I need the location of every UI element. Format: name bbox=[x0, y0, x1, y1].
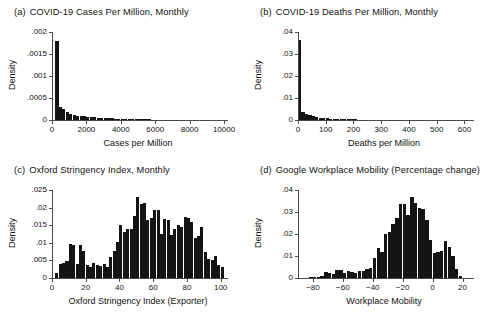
panel-a-title-text: COVID-19 Cases Per Million, Monthly bbox=[30, 7, 189, 17]
y-axis-tick-label: .04 bbox=[282, 185, 293, 194]
panel-c: (c)Oxford Stringency Index, Monthly 0.00… bbox=[0, 158, 246, 316]
histogram-bars bbox=[52, 32, 224, 120]
y-axis-tick-label: .03 bbox=[282, 49, 293, 58]
y-axis-tick-label: 0 bbox=[289, 115, 293, 124]
x-axis-tick bbox=[353, 121, 354, 124]
x-axis-tick bbox=[121, 121, 122, 124]
x-axis-tick bbox=[52, 279, 53, 282]
panel-b: (b)COVID-19 Deaths Per Million, Monthly … bbox=[246, 0, 492, 158]
y-axis-tick bbox=[49, 190, 52, 191]
y-axis-tick bbox=[49, 208, 52, 209]
x-axis-line bbox=[52, 278, 228, 279]
y-axis-tick-label: .03 bbox=[282, 207, 293, 216]
y-axis-tick-label: 0 bbox=[43, 273, 47, 282]
y-axis-tick bbox=[49, 54, 52, 55]
x-axis-title: Cases per Million bbox=[52, 138, 224, 148]
y-axis-tick-label: .01 bbox=[36, 238, 47, 247]
x-axis-tick bbox=[403, 279, 404, 282]
y-axis-tick-label: 0 bbox=[289, 273, 293, 282]
y-axis-tick bbox=[295, 234, 298, 235]
x-axis-tick bbox=[373, 279, 374, 282]
y-axis-tick bbox=[295, 190, 298, 191]
y-axis-tick-label: .0005 bbox=[27, 93, 47, 102]
x-axis-tick bbox=[409, 121, 410, 124]
x-axis-tick bbox=[52, 121, 53, 124]
x-axis-tick bbox=[313, 279, 314, 282]
x-axis-tick bbox=[381, 121, 382, 124]
x-axis-tick bbox=[187, 279, 188, 282]
panel-d: (d)Google Workplace Mobility (Percentage… bbox=[246, 158, 492, 316]
y-axis-tick bbox=[295, 32, 298, 33]
histogram-bars bbox=[298, 190, 470, 278]
y-axis-tick bbox=[49, 243, 52, 244]
x-axis-tick bbox=[433, 279, 434, 282]
panel-d-title-text: Google Workplace Mobility (Percentage ch… bbox=[276, 165, 480, 175]
x-axis-tick bbox=[190, 121, 191, 124]
panel-a-tag: (a) bbox=[14, 7, 26, 17]
x-axis-tick bbox=[153, 279, 154, 282]
y-axis-tick bbox=[49, 260, 52, 261]
x-axis-title: Deaths per Million bbox=[298, 138, 470, 148]
x-axis-tick-label: 20 bbox=[441, 283, 485, 292]
y-axis-title: Density bbox=[7, 55, 17, 95]
x-axis-title: Workplace Mobility bbox=[298, 296, 470, 306]
y-axis-line bbox=[298, 32, 299, 121]
panel-c-title-text: Oxford Stringency Index, Monthly bbox=[29, 165, 170, 175]
histogram-bars bbox=[52, 190, 224, 278]
x-axis-tick-label: 600 bbox=[442, 125, 486, 134]
y-axis-tick-label: .01 bbox=[282, 251, 293, 260]
y-axis-tick-label: .005 bbox=[31, 255, 47, 264]
y-axis-tick bbox=[49, 32, 52, 33]
panel-a-title: (a)COVID-19 Cases Per Million, Monthly bbox=[14, 7, 189, 17]
x-axis-tick bbox=[343, 279, 344, 282]
histogram-bar bbox=[221, 267, 224, 278]
y-axis-tick bbox=[295, 256, 298, 257]
panel-b-title-text: COVID-19 Deaths Per Million, Monthly bbox=[276, 7, 438, 17]
x-axis-tick bbox=[119, 279, 120, 282]
histogram-bars bbox=[298, 32, 470, 120]
panel-a: (a)COVID-19 Cases Per Million, Monthly 0… bbox=[0, 0, 246, 158]
x-axis-line bbox=[52, 120, 228, 121]
y-axis-tick-label: .01 bbox=[282, 93, 293, 102]
x-axis-tick-label: 10000 bbox=[202, 125, 246, 134]
y-axis-tick-label: 0 bbox=[43, 115, 47, 124]
panel-c-tag: (c) bbox=[14, 165, 25, 175]
y-axis-tick bbox=[295, 212, 298, 213]
panel-d-title: (d)Google Workplace Mobility (Percentage… bbox=[260, 165, 480, 175]
y-axis-tick bbox=[295, 278, 298, 279]
y-axis-tick-label: .002 bbox=[31, 27, 47, 36]
panel-c-title: (c)Oxford Stringency Index, Monthly bbox=[14, 165, 170, 175]
y-axis-tick-label: .001 bbox=[31, 71, 47, 80]
y-axis-tick bbox=[295, 98, 298, 99]
x-axis-tick bbox=[326, 121, 327, 124]
x-axis-line bbox=[298, 278, 474, 279]
y-axis-line bbox=[52, 32, 53, 121]
y-axis-tick bbox=[49, 98, 52, 99]
y-axis-line bbox=[298, 190, 299, 279]
x-axis-tick bbox=[221, 279, 222, 282]
panel-b-title: (b)COVID-19 Deaths Per Million, Monthly bbox=[260, 7, 438, 17]
x-axis-tick bbox=[155, 121, 156, 124]
y-axis-tick-label: .0015 bbox=[27, 49, 47, 58]
y-axis-tick-label: .015 bbox=[31, 220, 47, 229]
y-axis-tick-label: .02 bbox=[36, 203, 47, 212]
x-axis-line bbox=[298, 120, 474, 121]
y-axis-title: Density bbox=[7, 213, 17, 253]
x-axis-tick bbox=[86, 279, 87, 282]
y-axis-tick bbox=[49, 76, 52, 77]
y-axis-tick bbox=[49, 225, 52, 226]
x-axis-tick bbox=[463, 279, 464, 282]
panel-d-tag: (d) bbox=[260, 165, 272, 175]
y-axis-line bbox=[52, 190, 53, 279]
panel-b-tag: (b) bbox=[260, 7, 272, 17]
x-axis-tick-label: 100 bbox=[199, 283, 243, 292]
y-axis-title: Density bbox=[253, 55, 263, 95]
y-axis-tick-label: .02 bbox=[282, 229, 293, 238]
x-axis-tick bbox=[437, 121, 438, 124]
y-axis-tick bbox=[295, 76, 298, 77]
x-axis-title: Oxford Stringency Index (Exporter) bbox=[52, 296, 224, 306]
y-axis-tick-label: .02 bbox=[282, 71, 293, 80]
x-axis-tick bbox=[464, 121, 465, 124]
x-axis-tick bbox=[224, 121, 225, 124]
x-axis-tick bbox=[298, 121, 299, 124]
